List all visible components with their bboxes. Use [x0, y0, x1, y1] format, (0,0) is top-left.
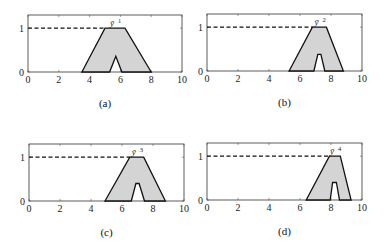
x-tick-label: 10 — [357, 202, 367, 213]
caption-d: (d) — [265, 225, 305, 237]
peak-label: ȳ — [329, 146, 335, 156]
x-tick-label: 6 — [298, 202, 303, 213]
x-tick-label: 2 — [236, 202, 241, 213]
x-tick-label: 4 — [267, 202, 272, 213]
x-tick-label: 8 — [329, 202, 334, 213]
chart-d: 024681001ȳ4 — [0, 0, 384, 245]
y-tick-label: 1 — [198, 151, 203, 162]
membership-polygon — [306, 156, 351, 200]
y-tick-label: 0 — [198, 195, 203, 206]
peak-label-superscript: 4 — [338, 145, 342, 152]
x-tick-label: 0 — [205, 202, 210, 213]
